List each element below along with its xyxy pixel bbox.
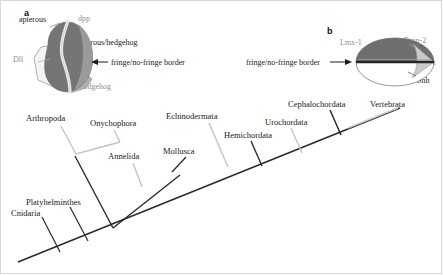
tree-branch-cnidaria (42, 217, 60, 252)
tree-branch-onychophora (114, 130, 120, 142)
fringe-border-arrow-a (91, 59, 108, 65)
tree-branch-annelida (133, 163, 142, 187)
tree-branch-platyhelminthes (70, 207, 88, 241)
tree-branch-cephalochordata (330, 110, 341, 135)
tree-branch-hemichordata (251, 141, 262, 166)
tree-protostome-stem (75, 156, 113, 228)
tree-connector-panarthropoda (76, 142, 120, 154)
tree-branch-mollusca (172, 157, 186, 172)
tree-branch-echinodermata (209, 123, 228, 167)
limb-bud-diagram (330, 38, 434, 86)
phylogenetic-tree (18, 108, 400, 262)
wing-disc-diagram (34, 21, 108, 93)
tree-backbone (18, 108, 400, 262)
tree-branch-vertebrata (348, 108, 398, 128)
figure-graphics (0, 0, 443, 275)
fringe-border-arrow-b (330, 59, 352, 65)
figure-root: a apterous dpp apterous/hedgehog Dll hed… (0, 0, 443, 275)
tree-branch-arthropoda (61, 126, 76, 154)
